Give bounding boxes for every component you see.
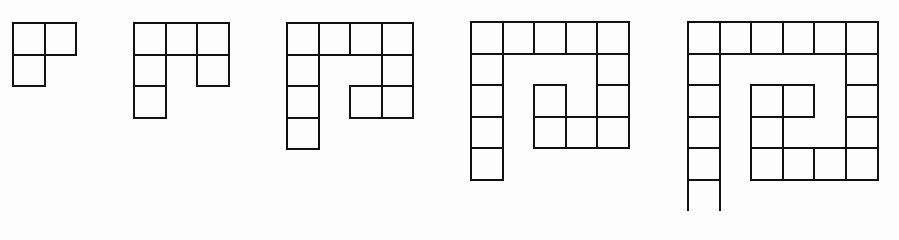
- grid-cell: [381, 85, 415, 119]
- grid-cell: [470, 116, 504, 150]
- grid-cell: [133, 85, 167, 119]
- grid-cell: [44, 22, 78, 56]
- grid-cell: [470, 21, 504, 55]
- grid-cell: [502, 21, 536, 55]
- grid-cell: [845, 21, 879, 55]
- grid-cell: [470, 147, 504, 181]
- grid-cell: [782, 21, 816, 55]
- grid-cell: [533, 84, 567, 118]
- grid-cell: [687, 53, 721, 87]
- grid-cell: [813, 21, 847, 55]
- grid-cell: [533, 116, 567, 150]
- grid-cell: [845, 53, 879, 87]
- grid-cell: [286, 117, 320, 151]
- grid-cell: [565, 116, 599, 150]
- grid-cell: [565, 21, 599, 55]
- grid-cell: [349, 85, 383, 119]
- grid-cell: [133, 54, 167, 88]
- grid-cell: [165, 22, 199, 56]
- grid-cell: [687, 21, 721, 55]
- grid-cell: [318, 22, 352, 56]
- grid-cell: [286, 85, 320, 119]
- grid-cell: [750, 21, 784, 55]
- grid-cell: [381, 22, 415, 56]
- grid-cell: [470, 84, 504, 118]
- grid-cell: [687, 147, 721, 181]
- grid-cell: [133, 22, 167, 56]
- grid-cell: [286, 22, 320, 56]
- grid-cell: [845, 147, 879, 181]
- grid-cell: [349, 22, 383, 56]
- grid-cell: [596, 84, 630, 118]
- grid-cell: [719, 21, 753, 55]
- grid-cell: [196, 22, 230, 56]
- grid-cell: [596, 21, 630, 55]
- grid-cell: [596, 53, 630, 87]
- grid-cell: [12, 22, 46, 56]
- grid-cell: [687, 179, 721, 211]
- grid-cell: [750, 116, 784, 150]
- grid-cell: [782, 147, 816, 181]
- grid-cell: [687, 84, 721, 118]
- grid-cell: [687, 116, 721, 150]
- grid-cell: [845, 116, 879, 150]
- grid-cell: [286, 54, 320, 88]
- grid-cell: [12, 54, 46, 88]
- grid-cell: [470, 53, 504, 87]
- grid-cell: [750, 84, 784, 118]
- grid-cell: [596, 116, 630, 150]
- grid-cell: [813, 147, 847, 181]
- grid-cell: [381, 54, 415, 88]
- grid-cell: [782, 84, 816, 118]
- grid-cell: [196, 54, 230, 88]
- grid-cell: [533, 21, 567, 55]
- grid-cell: [845, 84, 879, 118]
- grid-cell: [750, 147, 784, 181]
